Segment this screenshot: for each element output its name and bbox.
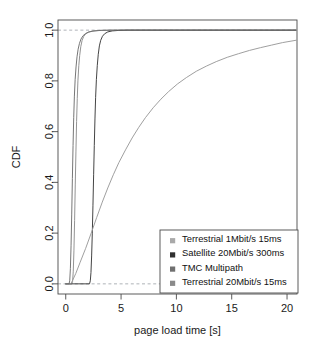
x-tick-label-4: 20 <box>281 302 293 314</box>
y-tick-label-5: 1.0 <box>43 22 55 37</box>
y-axis-title: CDF <box>10 145 22 168</box>
legend-swatch-2 <box>170 267 175 272</box>
x-tick-label-2: 10 <box>170 302 182 314</box>
x-tick-label-0: 0 <box>63 302 69 314</box>
legend-label-2: TMC Multipath <box>182 262 243 273</box>
legend-swatch-3 <box>170 281 175 286</box>
legend-label-3: Terrestrial 20Mbit/s 15ms <box>182 276 287 287</box>
cdf-chart-figure: 051015200.00.20.40.60.81.0page load time… <box>0 0 312 354</box>
y-tick-label-0: 0.0 <box>43 276 55 291</box>
x-axis-title: page load time [s] <box>134 324 221 336</box>
y-tick-label-2: 0.4 <box>43 175 55 190</box>
chart-canvas: 051015200.00.20.40.60.81.0page load time… <box>0 0 312 354</box>
legend-label-0: Terrestrial 1Mbit/s 15ms <box>182 233 282 244</box>
x-tick-label-3: 15 <box>226 302 238 314</box>
x-tick-label-1: 5 <box>118 302 124 314</box>
legend-label-1: Satellite 20Mbit/s 300ms <box>182 247 284 258</box>
y-tick-label-1: 0.2 <box>43 225 55 240</box>
y-tick-label-3: 0.6 <box>43 124 55 139</box>
legend-swatch-1 <box>170 252 175 257</box>
legend-swatch-0 <box>170 238 175 243</box>
y-tick-label-4: 0.8 <box>43 73 55 88</box>
